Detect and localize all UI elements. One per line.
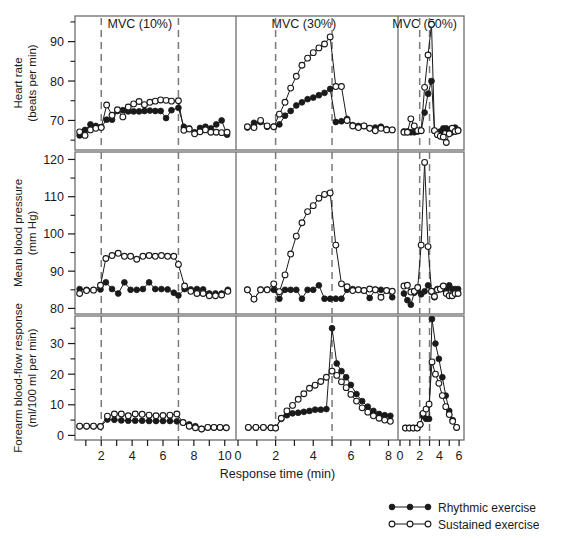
data-point-open bbox=[98, 282, 104, 288]
data-point-open bbox=[251, 125, 257, 131]
data-point-open bbox=[318, 379, 324, 385]
x-axis-panel-1: 02468 bbox=[235, 440, 392, 463]
data-point-filled bbox=[219, 118, 225, 124]
data-point-open bbox=[432, 294, 438, 300]
x-axis-panel-0: 246810 bbox=[86, 440, 232, 463]
data-point-open bbox=[371, 413, 377, 419]
data-point-open bbox=[339, 84, 345, 90]
data-point-open bbox=[125, 104, 131, 110]
series-markers-sustained bbox=[245, 368, 393, 431]
y-tick-label: 30 bbox=[50, 337, 64, 351]
data-point-open bbox=[223, 425, 229, 431]
data-point-filled bbox=[290, 410, 296, 416]
data-point-open bbox=[120, 114, 126, 120]
data-point-open bbox=[186, 126, 192, 132]
y-axis-row-2: 0102030 bbox=[50, 328, 75, 443]
y-axis-label-1: Mean blood pressure(mm Hg) bbox=[12, 179, 38, 287]
data-point-filled bbox=[276, 296, 282, 302]
data-point-open bbox=[422, 84, 428, 90]
data-point-open bbox=[301, 391, 307, 397]
data-point-filled bbox=[118, 418, 124, 424]
data-point-filled bbox=[103, 279, 109, 285]
data-point-filled bbox=[299, 99, 305, 105]
legend-item-rhythmic: Rhythmic exercise bbox=[389, 501, 536, 515]
data-point-open bbox=[152, 253, 158, 259]
data-point-open bbox=[322, 41, 328, 47]
data-point-open bbox=[182, 283, 188, 289]
data-point-open bbox=[174, 411, 180, 417]
data-point-open bbox=[355, 287, 361, 293]
data-point-open bbox=[271, 281, 277, 287]
data-point-open bbox=[344, 118, 350, 124]
chart-frame bbox=[75, 16, 464, 440]
data-point-open bbox=[181, 127, 187, 133]
y-axis-label-2: Forearm blood-flow response(ml/100 ml pe… bbox=[12, 303, 38, 453]
data-point-open bbox=[169, 98, 175, 104]
data-point-open bbox=[194, 291, 200, 297]
data-point-filled bbox=[378, 287, 384, 293]
data-point-open bbox=[425, 52, 431, 58]
data-point-open bbox=[350, 123, 356, 129]
data-point-open bbox=[180, 420, 186, 426]
data-point-open bbox=[305, 209, 311, 215]
data-point-open bbox=[98, 125, 104, 131]
data-point-open bbox=[455, 128, 461, 134]
x-tick-label: 2 bbox=[416, 449, 423, 463]
data-point-open bbox=[82, 133, 88, 139]
y-tick-label: 90 bbox=[50, 35, 64, 49]
x-axis-title: Response time (min) bbox=[220, 467, 335, 481]
data-point-open bbox=[219, 292, 225, 298]
panel-title-group-0: MVC (10%) bbox=[108, 17, 173, 31]
data-point-open bbox=[443, 404, 449, 410]
data-point-open bbox=[305, 55, 311, 61]
data-point-open bbox=[443, 140, 449, 146]
data-point-open bbox=[288, 85, 294, 91]
series-group-p0-r0 bbox=[77, 97, 230, 138]
data-point-filled bbox=[436, 356, 442, 362]
data-point-open bbox=[422, 160, 428, 166]
data-point-filled bbox=[276, 121, 282, 127]
data-point-filled bbox=[327, 296, 333, 302]
data-point-open bbox=[384, 127, 390, 133]
data-point-open bbox=[111, 411, 117, 417]
data-point-open bbox=[121, 253, 127, 259]
data-point-open bbox=[439, 393, 445, 399]
data-point-filled bbox=[310, 95, 316, 101]
legend-item-sustained: Sustained exercise bbox=[389, 518, 540, 532]
data-point-filled bbox=[324, 406, 330, 412]
x-tick-label: 2 bbox=[98, 449, 105, 463]
panel-title-group-1: MVC (30%) bbox=[272, 17, 337, 31]
data-point-open bbox=[436, 380, 442, 386]
data-point-filled bbox=[389, 504, 395, 510]
data-point-open bbox=[271, 124, 277, 130]
data-point-open bbox=[425, 244, 431, 250]
data-point-filled bbox=[367, 295, 373, 301]
data-point-open bbox=[359, 405, 365, 411]
data-point-filled bbox=[312, 407, 318, 413]
data-point-filled bbox=[299, 296, 305, 302]
data-point-filled bbox=[407, 504, 413, 510]
y-tick-label: 80 bbox=[50, 302, 64, 316]
data-point-open bbox=[245, 425, 251, 431]
series-group-p2-r2 bbox=[403, 316, 460, 431]
legend-label: Rhythmic exercise bbox=[438, 501, 536, 515]
data-point-filled bbox=[152, 286, 158, 292]
data-point-filled bbox=[131, 108, 137, 114]
data-point-open bbox=[188, 288, 194, 294]
series-group-p2-r1 bbox=[401, 160, 461, 308]
data-point-open bbox=[429, 359, 435, 365]
data-point-open bbox=[372, 287, 378, 293]
data-point-open bbox=[118, 411, 124, 417]
data-point-filled bbox=[293, 287, 299, 293]
data-point-open bbox=[258, 287, 264, 293]
data-point-filled bbox=[121, 279, 127, 285]
data-point-filled bbox=[329, 325, 335, 331]
data-point-open bbox=[77, 291, 83, 297]
data-point-open bbox=[307, 385, 313, 391]
data-point-filled bbox=[425, 282, 431, 288]
data-point-filled bbox=[426, 416, 432, 422]
data-point-open bbox=[333, 242, 339, 248]
data-point-open bbox=[200, 291, 206, 297]
data-point-open bbox=[91, 287, 97, 293]
data-point-open bbox=[163, 97, 169, 103]
